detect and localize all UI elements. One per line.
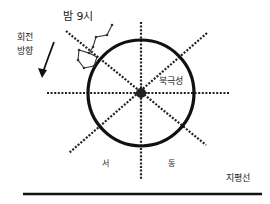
polaris-label: 북극성 xyxy=(159,76,183,86)
big-dipper-constellation xyxy=(77,24,114,70)
celestial-rotation-diagram: 밤 9시 회전 방향 북극성 서 동 지평선 xyxy=(0,0,270,204)
polaris-star-icon xyxy=(133,85,149,101)
axis-lines xyxy=(47,22,230,180)
east-label: 동 xyxy=(168,159,175,168)
horizon-label: 지평선 xyxy=(226,173,250,183)
rotation-direction-arrow-icon xyxy=(38,42,54,78)
west-label: 서 xyxy=(102,159,109,168)
rotation-label-line1: 회전 xyxy=(17,32,33,42)
time-label: 밤 9시 xyxy=(63,10,94,23)
rotation-label-line2: 방향 xyxy=(17,45,33,56)
